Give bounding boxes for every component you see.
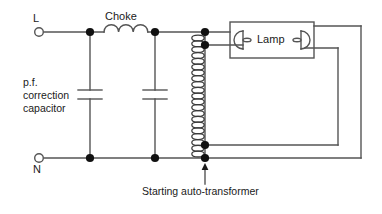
lamp-left-filament bbox=[243, 38, 251, 42]
lamp-right-electrode-cap bbox=[301, 31, 310, 49]
terminal-neutral-circle bbox=[35, 154, 44, 163]
auto-transformer-winding bbox=[192, 35, 204, 157]
node-choke-output bbox=[151, 28, 159, 36]
node-transformer-bottom bbox=[201, 154, 209, 162]
terminal-live-circle bbox=[35, 28, 44, 37]
node-live-capacitor bbox=[86, 28, 94, 36]
auto-transformer-caption: Starting auto-transformer bbox=[142, 185, 259, 198]
node-neutral-mid bbox=[151, 154, 159, 162]
caption-arrow-head bbox=[202, 163, 209, 170]
pf-capacitor-label-line2: correction bbox=[23, 89, 69, 102]
junction-nodes bbox=[86, 28, 209, 162]
terminal-neutral-label: N bbox=[33, 163, 41, 177]
node-transformer-tap-upper bbox=[201, 41, 209, 49]
lamp-left-electrode-cap bbox=[234, 31, 243, 49]
node-neutral-capacitor bbox=[86, 154, 94, 162]
choke-label: Choke bbox=[105, 10, 137, 24]
terminal-live-label: L bbox=[33, 12, 39, 26]
circuit-diagram: L N Choke Lamp p.f. correction capacitor… bbox=[0, 0, 382, 214]
pf-capacitor-label-line1: p.f. bbox=[23, 76, 38, 89]
lamp-label: Lamp bbox=[257, 33, 285, 47]
lamp-right-filament bbox=[293, 38, 301, 42]
pf-capacitor-label-line3: capacitor bbox=[23, 102, 66, 115]
choke-inductor-symbol bbox=[104, 25, 148, 32]
node-transformer-tap-lower bbox=[201, 141, 209, 149]
node-transformer-top bbox=[201, 28, 209, 36]
